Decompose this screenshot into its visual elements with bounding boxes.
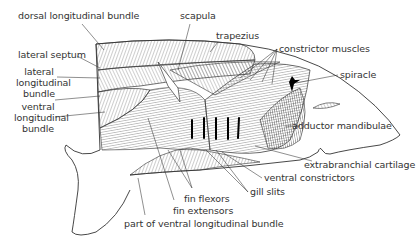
label-lateral-longitudinal-bundle: lateral longitudinal bundle xyxy=(16,66,62,99)
label-fin-flexors: fin flexors xyxy=(184,193,230,204)
label-extrabranchial-cartilage: extrabranchial cartilage xyxy=(304,159,415,170)
label-lateral-septum: lateral septum xyxy=(18,49,86,60)
label-line: ventral xyxy=(14,101,62,112)
label-part-of-ventral-longitudinal-bundle: part of ventral longitudinal bundle xyxy=(124,218,283,229)
label-constrictor-muscles: constrictor muscles xyxy=(279,43,370,54)
label-trapezius: trapezius xyxy=(216,30,259,41)
label-gill-slits: gill slits xyxy=(250,186,285,197)
label-scapula: scapula xyxy=(180,10,216,21)
eye xyxy=(313,103,340,109)
label-line: lateral xyxy=(16,66,62,77)
label-dorsal-longitudinal-bundle: dorsal longitudinal bundle xyxy=(18,10,139,21)
label-ventral-constrictors: ventral constrictors xyxy=(264,172,355,183)
label-ventral-longitudinal-bundle: ventral longitudinal bundle xyxy=(14,101,62,134)
label-line: bundle xyxy=(14,123,62,134)
label-adductor-mandibulae: adductor mandibulae xyxy=(292,120,392,131)
label-line: longitudinal xyxy=(16,77,62,88)
label-spiracle: spiracle xyxy=(340,69,376,80)
label-line: bundle xyxy=(16,88,62,99)
label-fin-extensors: fin extensors xyxy=(173,205,233,216)
label-line: longitudinal xyxy=(14,112,62,123)
